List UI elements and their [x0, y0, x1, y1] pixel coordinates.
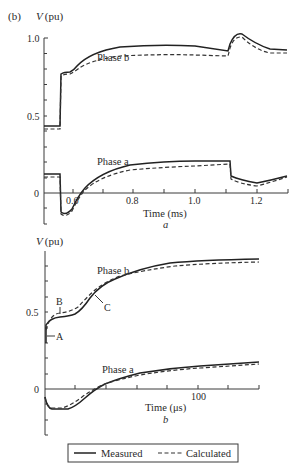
x-tick-label: 1.2: [250, 195, 263, 206]
phase-b-calculated-line: [46, 262, 259, 330]
x-tick-label: 0.8: [126, 195, 139, 206]
marker-a-label: A: [56, 331, 64, 342]
marker-b-label: B: [56, 296, 63, 307]
y-tick-label: 1.0: [27, 33, 40, 44]
phase-a-annotation: Phase a: [97, 156, 129, 167]
phase-b-calculated-line: [44, 37, 287, 129]
phase-b-annotation: Phase b: [97, 265, 129, 276]
x-tick-label: 100: [191, 391, 206, 402]
figure-canvas: (b) V(pu) 1.0 0.5 0 0.6 0.8 1.0 1.2 Time…: [0, 0, 297, 465]
x-axis-label: Time (μs): [145, 402, 187, 414]
y-tick-label: 0.5: [27, 111, 40, 122]
y-axis-label: V(pu): [36, 10, 63, 23]
phase-b-measured-line: [46, 259, 259, 343]
phase-a-annotation: Phase a: [102, 364, 134, 375]
phase-b-measured-line: [44, 34, 287, 126]
legend-calculated-label: Calculated: [186, 448, 232, 459]
legend-measured-label: Measured: [101, 448, 143, 459]
x-ticks: [73, 189, 288, 193]
legend: Measured Calculated: [68, 444, 238, 462]
y-tick-label: 0.5: [26, 307, 39, 318]
panel-a: (b) V(pu) 1.0 0.5 0 0.6 0.8 1.0 1.2 Time…: [8, 10, 288, 230]
panel-b: V(pu) 0.5 0 100 Time (μs) b Phase b P: [26, 235, 259, 435]
y-tick-label: 0: [34, 188, 39, 199]
figure-label: (b): [8, 10, 21, 23]
x-tick-label: 1.0: [188, 195, 201, 206]
marker-c-label: C: [104, 302, 111, 313]
panel-caption: b: [163, 414, 168, 425]
panel-caption: a: [163, 219, 168, 230]
y-axis-label: V(pu): [36, 235, 63, 248]
y-tick-label: 0: [34, 384, 39, 395]
marker-c-leader: [95, 295, 103, 303]
y-ticks: [44, 38, 48, 224]
phase-b-annotation: Phase b: [97, 52, 129, 63]
